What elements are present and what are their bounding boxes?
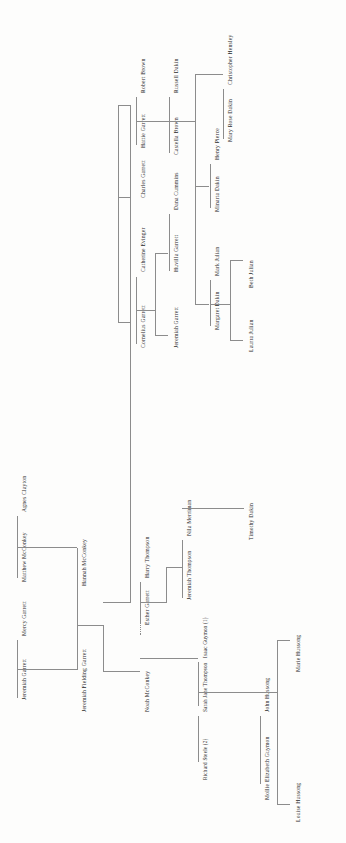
children-drop-cornelius [136,310,155,311]
sibling-bar-dakin-children [195,74,196,304]
sibling-bar-julian-children [230,260,231,340]
union-bar-mollie-john [260,716,261,784]
person-jeremiah-garrett-jr: Jeremiah Garrett [174,307,180,348]
union-bar-minarta-henry [210,164,211,208]
person-mercy-garrett: Mercy Garrett [22,601,28,636]
union-bar-esther-harry [140,582,141,624]
person-esther-garrett: Esther Garrett [145,590,151,625]
person-agnes-clayton: Agnes Clayton [22,476,28,512]
sibling-line-cornelius [118,322,131,323]
person-matthew-mcconkey: Matthew McConkey [22,532,28,582]
sibling-line-minarta [195,186,209,187]
sibling-line-hattie [118,105,131,106]
person-hannah-mcconkey: Hannah McConkey [82,539,88,586]
sibling-line-beth [230,260,243,261]
union-bar-margaret-mark [210,280,211,326]
sibling-line-charles [118,197,131,198]
child-line-esther-garrett-2 [103,671,140,672]
sibling-bar-cornelius-children [155,253,156,335]
person-jeremiah-fielding-garrett: Jeremiah Fielding Garrett [82,649,88,712]
person-beth-julian: Beth Julian [249,260,255,288]
child-elbow-esther-garrett [103,625,104,671]
union-bar-huvilla-dana [169,214,170,271]
person-harry-thompson: Harry Thompson [145,537,151,578]
person-charles-garrett: Charles Garrett [141,160,147,198]
family-tree-diagram: Jeremiah Garrett Mercy Garrett Matthew M… [0,0,346,843]
person-huvilla-garrett: Huvilla Garrett [174,235,180,272]
person-john-hussong: John Hussong [265,678,271,712]
union-bar-steele-sarah [198,716,199,762]
children-drop-dakin [169,121,195,122]
person-margaret-dakin: Margaret Dakin [215,291,221,330]
child-line-jeremiah-fielding [17,669,77,670]
sibling-line-louise [277,804,290,805]
person-isaac-guymon: Isaac Guymon (1) [203,617,208,658]
person-marie-hussong: Marie Hussong [296,635,302,672]
person-cornelius-garrett: Cornelius Garrett [141,305,147,348]
link-maryrose-branch [195,74,223,75]
person-dana-cummins: Dana Cummins [174,172,180,210]
person-hattie-garrett: Hattie Garrett [141,114,147,148]
child-line-mollie-guymon [198,692,260,693]
person-mary-rose-dakin: Mary Rose Dakin [228,99,234,142]
sibling-line-laurra [230,340,243,341]
union-bar-sarah-isaac [198,662,199,706]
person-louise-hussong: Louise Hussong [296,783,302,822]
person-robert-brown: Robert Brown [141,58,147,93]
spine-join-fielding [103,602,131,603]
child-line-jeremiah-thompson-2 [166,567,182,568]
sibling-line-jeremiah-jr [155,335,168,336]
person-russell-dakin: Russell Dakin [174,59,180,93]
person-catherine-evinger: Catherine Evinger [141,227,147,272]
sibling-spine-garrett [130,105,131,603]
person-sarah-jane-thompson: Sarah Jane Thompson [203,662,208,712]
person-noah-mcconkey: Noah McConkey [145,671,151,712]
union-bar-castella-russell [169,97,170,153]
sibling-bar-garrett-top [118,105,119,322]
child-line-esther-garrett [77,625,103,626]
person-henry-pierce: Henry Pierce [215,128,221,160]
child-elbow-jeremiah-thompson [166,567,167,603]
sibling-drop-hussong [260,692,277,693]
sibling-line-margaret [195,304,209,305]
person-jeremiah-garrett-sr: Jeremiah Garrett [22,659,28,700]
person-mollie-elizabeth-guymon: Mollie Elizabeth Guymon [265,736,271,800]
person-mark-julian: Mark Julian [215,247,221,276]
person-richard-steele: Richard Steele (2) [203,739,208,780]
union-bar-maryrose-christopher [223,89,224,139]
sibling-line-huvilla [155,253,168,254]
union-bar-jeremiah-nila [182,540,183,598]
person-jeremiah-thompson: Jeremiah Thompson [187,551,193,600]
child-line-hannah-mcconkey [17,547,77,548]
child-line-castella [136,121,170,122]
child-line-timothy-dakin [182,508,244,509]
person-timothy-dakin: Timothy Dakin [249,503,255,540]
person-nila-merriman: Nila Merriman [187,500,193,536]
person-minarta-dakin: Minarta Dakin [215,176,221,212]
union-bar-fielding-hannah [77,548,78,670]
person-christopher-hensley: Christopher Hensley [228,35,234,85]
person-castella-brown: Castella Brown [174,117,180,155]
sibling-line-marie [277,640,290,641]
sibling-bar-hussong [277,640,278,804]
children-drop-julian [210,304,230,305]
child-line-sarah-jane [140,658,198,659]
child-line-jeremiah-thompson [140,602,166,603]
person-laurra-julian: Laurra Julian [249,319,255,352]
